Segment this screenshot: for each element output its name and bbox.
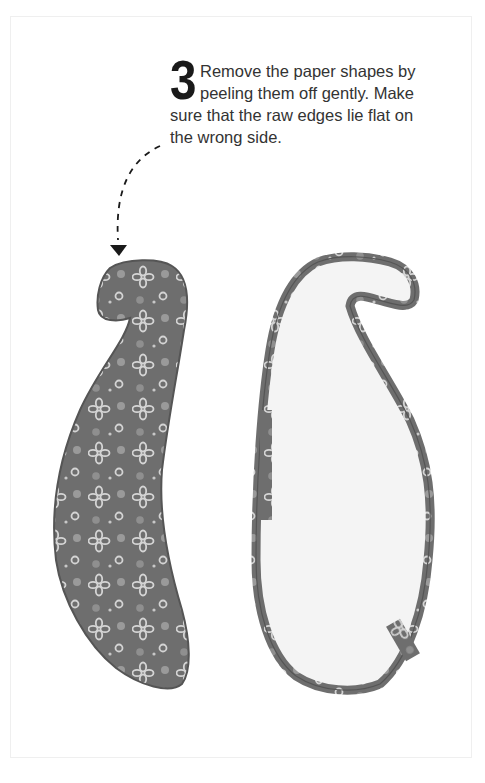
dashed-arrow-icon xyxy=(110,146,160,256)
paisley-fabric-front xyxy=(54,260,189,688)
illustration-canvas xyxy=(0,0,485,783)
paisley-fabric-back xyxy=(256,257,430,690)
